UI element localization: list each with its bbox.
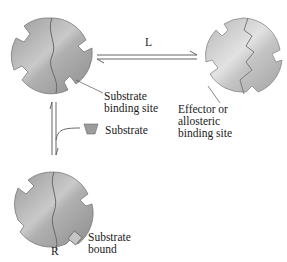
horizontal-equilibrium-arrows bbox=[97, 51, 197, 63]
substrate-bound-label: Substrate bound bbox=[88, 231, 131, 255]
substrate-site-pointer bbox=[76, 80, 103, 93]
enzyme-substrate-bound bbox=[15, 172, 94, 250]
effector-binding-site-label: Effector or allosteric binding site bbox=[178, 103, 232, 139]
vertical-equilibrium-arrows bbox=[50, 102, 80, 155]
substrate-binding-site-label: Substrate binding site bbox=[104, 90, 158, 114]
arrow-label-r: R bbox=[51, 245, 59, 257]
effector-site-pointer bbox=[208, 86, 220, 103]
arrow-label-l: L bbox=[145, 36, 152, 48]
enzyme-r-state-effector bbox=[206, 18, 282, 94]
substrate-icon bbox=[84, 124, 98, 134]
substrate-label: Substrate bbox=[105, 124, 148, 136]
enzyme-t-state bbox=[11, 18, 92, 94]
